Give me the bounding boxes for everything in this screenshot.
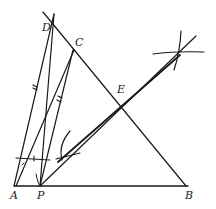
ray-PE-heavy [58, 55, 180, 162]
ray-PE [40, 36, 196, 186]
construction-arc [174, 31, 181, 70]
segment-DB [43, 12, 186, 186]
construction-diagram: D C E A P B [0, 0, 216, 209]
label-B: B [184, 189, 193, 202]
construction-segment [16, 158, 50, 160]
label-C: C [75, 36, 84, 49]
label-P: P [36, 189, 45, 202]
label-A: A [9, 189, 18, 202]
construction-arc [36, 174, 40, 186]
label-D: D [41, 21, 51, 34]
tick-mark [22, 163, 24, 165]
label-E: E [116, 83, 125, 96]
